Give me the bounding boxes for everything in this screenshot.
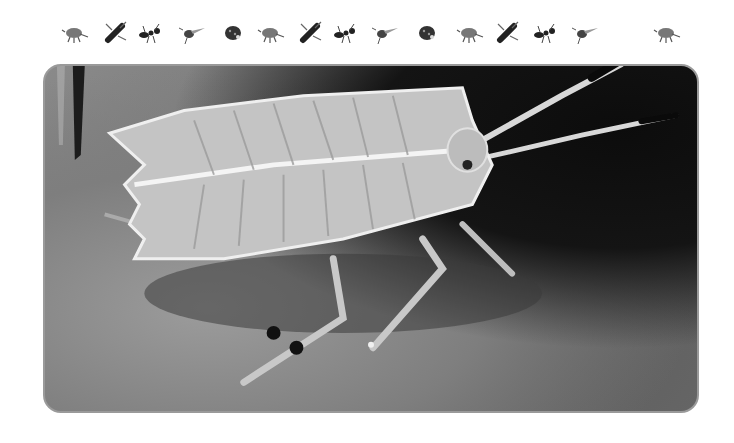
ant-icon — [330, 18, 360, 48]
wasp-icon — [492, 18, 522, 48]
fly-icon — [370, 18, 400, 48]
beetle-icon — [60, 18, 90, 48]
beetle-icon — [652, 18, 682, 48]
shield-bug-illustration — [45, 66, 697, 411]
ladybug-icon — [218, 18, 248, 48]
fly-icon — [570, 18, 600, 48]
ant-icon — [135, 18, 165, 48]
insect-border — [0, 18, 734, 48]
insect-photo — [43, 64, 699, 413]
ant-icon — [530, 18, 560, 48]
ladybug-icon — [412, 18, 442, 48]
beetle-icon — [256, 18, 286, 48]
wasp-icon — [295, 18, 325, 48]
fly-icon — [177, 18, 207, 48]
beetle-icon — [455, 18, 485, 48]
wasp-icon — [100, 18, 130, 48]
